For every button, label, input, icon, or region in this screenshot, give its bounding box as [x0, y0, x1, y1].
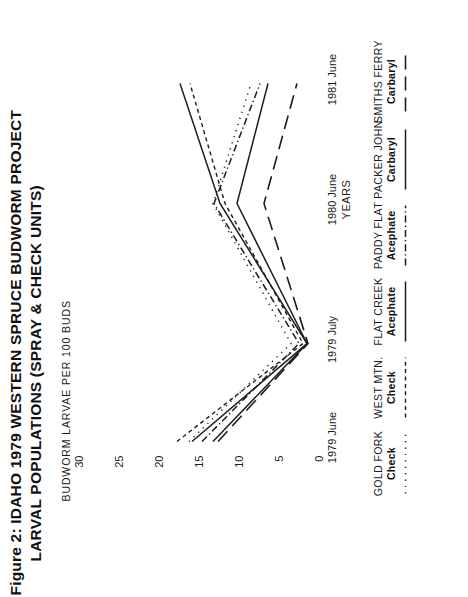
legend-item-treatment: Check: [385, 345, 398, 429]
legend-swatch-solid: [401, 117, 410, 201]
legend-item-treatment: Carbaryl: [385, 39, 398, 123]
legend-item-gold-fork-check: GOLD FORK Check: [372, 421, 410, 505]
legend-item-treatment: Carbaryl: [385, 117, 398, 201]
rotated-page-wrapper: Figure 2: IDAHO 1979 WESTERN SPRUCE BUDW…: [0, 0, 468, 597]
legend-item-west-mtn-check: WEST MTN. Check: [372, 345, 410, 429]
line-chart-plot-area: [78, 49, 356, 449]
x-axis-title: YEARS: [340, 155, 352, 243]
x-tick-label-1979-july: 1979 July: [326, 295, 338, 383]
chart-legend: GOLD FORK Check WEST MTN. Check FLAT CRE…: [372, 25, 458, 505]
legend-item-name: FLAT CREEK: [372, 269, 385, 353]
x-tick-label-1981-june: 1981 June: [326, 35, 338, 123]
legend-item-name: WEST MTN.: [372, 345, 385, 429]
legend-item-treatment: Acephate: [385, 269, 398, 353]
legend-item-packer-john-carbaryl: PACKER JOHN Carbaryl: [372, 117, 410, 201]
legend-swatch-dashed-dot: [401, 193, 410, 277]
legend-item-name: SMITHS FERRY: [372, 39, 385, 123]
caption-line-1: Figure 2: IDAHO 1979 WESTERN SPRUCE BUDW…: [6, 3, 26, 595]
legend-item-name: GOLD FORK: [372, 421, 385, 505]
y-tick-label-5: 5: [273, 455, 285, 481]
legend-item-treatment: Acephate: [385, 193, 398, 277]
y-tick-label-30: 30: [73, 455, 85, 481]
legend-swatch-dashed-fine: [401, 345, 410, 429]
figure-caption: Figure 2: IDAHO 1979 WESTERN SPRUCE BUDW…: [6, 3, 47, 595]
legend-swatch-solid: [401, 269, 410, 353]
y-tick-label-15: 15: [193, 455, 205, 481]
x-tick-label-1980-june: 1980 June: [326, 155, 338, 243]
y-tick-label-10: 10: [233, 455, 245, 481]
legend-swatch-long-dash: [401, 39, 410, 123]
x-tick-label-1979-june: 1979 June: [326, 393, 338, 481]
y-tick-label-0: 0: [313, 455, 325, 481]
caption-line-2: LARVAL POPULATIONS (SPRAY & CHECK UNITS): [26, 3, 46, 561]
figure-page: Figure 2: IDAHO 1979 WESTERN SPRUCE BUDW…: [0, 0, 468, 597]
series-line-flat-creek-acephate: [180, 83, 307, 441]
legend-item-name: PADDY FLAT: [372, 193, 385, 277]
y-tick-label-20: 20: [153, 455, 165, 481]
legend-swatch-dotted: [401, 421, 410, 505]
series-line-paddy-flat-acephate: [202, 83, 299, 441]
legend-item-paddy-flat-acephate: PADDY FLAT Acephate: [372, 193, 410, 277]
legend-item-flat-creek-acephate: FLAT CREEK Acephate: [372, 269, 410, 353]
series-line-smiths-ferry-carbaryl: [218, 83, 308, 441]
y-axis-title: BUDWORM LARVAE PER 100 BUDS: [60, 300, 72, 501]
legend-item-smiths-ferry-carbaryl: SMITHS FERRY Carbaryl: [372, 39, 410, 123]
legend-item-name: PACKER JOHN: [372, 117, 385, 201]
legend-item-treatment: Check: [385, 421, 398, 505]
series-line-packer-john-carbaryl: [213, 83, 307, 441]
y-tick-label-25: 25: [113, 455, 125, 481]
